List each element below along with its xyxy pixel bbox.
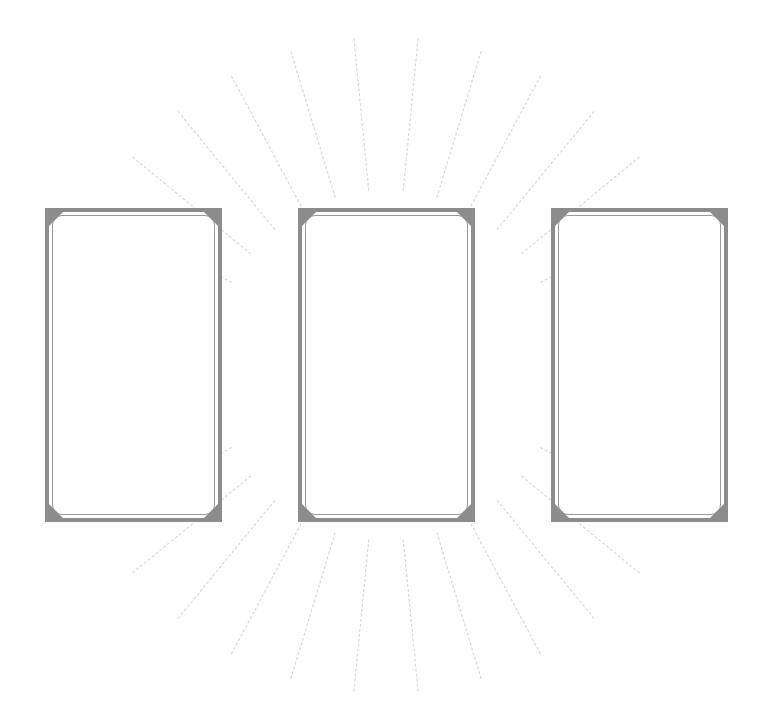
corner-ornament [302, 504, 316, 518]
ray-line [354, 37, 369, 191]
card-inner-frame [558, 215, 721, 515]
corner-ornament [204, 504, 218, 518]
ray-line [230, 74, 303, 211]
corner-ornament [555, 504, 569, 518]
corner-ornament [457, 212, 471, 226]
ray-line [290, 49, 335, 197]
ray-line [230, 519, 303, 656]
card-right[interactable] [551, 208, 728, 522]
card-inner-frame [305, 215, 468, 515]
ray-line [469, 519, 542, 656]
card-inner-frame [52, 215, 215, 515]
corner-ornament [555, 212, 569, 226]
corner-ornament [302, 212, 316, 226]
corner-ornament [710, 212, 724, 226]
card-center[interactable] [298, 208, 475, 522]
corner-ornament [49, 212, 63, 226]
corner-ornament [710, 504, 724, 518]
ray-line [469, 74, 542, 211]
ray-line [403, 37, 418, 191]
ray-line [290, 533, 335, 681]
corner-ornament [204, 212, 218, 226]
ray-line [403, 539, 418, 693]
ray-line [437, 533, 482, 681]
card-left[interactable] [45, 208, 222, 522]
ray-line [437, 49, 482, 197]
ray-line [354, 539, 369, 693]
corner-ornament [457, 504, 471, 518]
corner-ornament [49, 504, 63, 518]
